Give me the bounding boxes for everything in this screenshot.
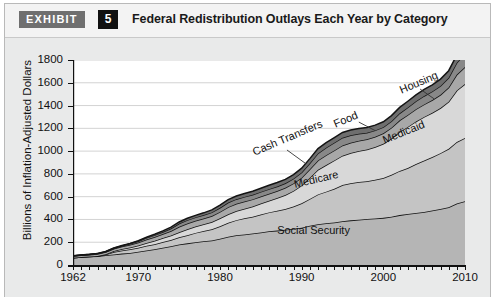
label-leader-line [287,150,306,164]
x-tick-label: 1990 [279,271,325,283]
y-tick-label: 800 [27,167,63,179]
exhibit-badge: EXHIBIT [19,11,85,28]
y-tick-label: 1800 [27,53,63,65]
x-tick-mark [465,265,466,270]
y-tick-label: 1000 [27,144,63,156]
y-tick-label: 1200 [27,121,63,133]
y-tick-label: 200 [27,235,63,247]
page-title: Federal Redistribution Outlays Each Year… [132,11,448,28]
x-axis-line [68,265,465,267]
plot-area: Social SecurityMedicareMedicaidCash Tran… [73,60,465,265]
y-tick-label: 600 [27,190,63,202]
y-tick-label: 1400 [27,99,63,111]
exhibit-header: EXHIBIT 5 Federal Redistribution Outlays… [5,4,490,38]
y-tick-label: 400 [27,212,63,224]
exhibit-card: EXHIBIT 5 Federal Redistribution Outlays… [4,3,491,297]
chart-panel: Billions of Inflation-Adjusted Dollars 0… [5,38,490,297]
y-tick-label: 0 [27,258,63,270]
y-tick-label: 1600 [27,76,63,88]
x-tick-label: 1962 [50,271,96,283]
x-tick-label: 1980 [197,271,243,283]
x-tick-label: 2010 [442,271,488,283]
x-tick-label: 2000 [360,271,406,283]
x-tick-label: 1970 [115,271,161,283]
series-label-social-security: Social Security [277,224,350,236]
exhibit-number-badge: 5 [98,10,118,29]
